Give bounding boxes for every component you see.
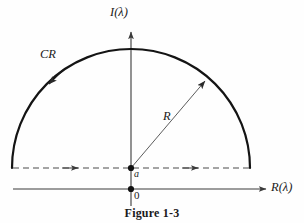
radius-label-r: R [163,110,171,123]
origin-label: 0 [134,190,140,201]
contour-direction-arrow-icon [49,70,63,84]
imaginary-axis-label: I(λ) [110,6,128,19]
real-axis-label: R(λ) [271,181,292,194]
point-a-label: a [134,169,139,179]
radius-segment [131,81,205,168]
figure-caption: Figure 1-3 [0,206,304,221]
figure-drawing-canvas [0,0,304,223]
radius-line-R [131,81,205,168]
figure-container: I(λ) R(λ) CR R a 0 Figure 1-3 [0,0,304,223]
contour-label-cr: CR [40,48,56,61]
